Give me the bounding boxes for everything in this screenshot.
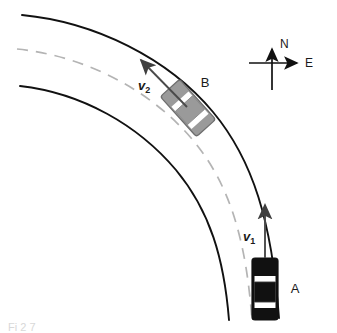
figure-canvas: v1 v2 B A N E Fi 2 7 xyxy=(0,0,337,333)
compass-north-label: N xyxy=(280,37,289,51)
car-label-b: B xyxy=(201,75,210,90)
compass-rose: N E xyxy=(249,37,313,90)
outer-road-edge xyxy=(22,15,279,318)
v1-label: v1 xyxy=(243,229,255,246)
road-group xyxy=(17,15,279,320)
figure-caption: Fi 2 7 xyxy=(8,321,36,333)
velocity-vector-v1: v1 xyxy=(243,205,265,258)
car-a-body xyxy=(252,258,278,320)
car-a-windshield-stripe xyxy=(255,276,276,282)
car-a-rear-stripe xyxy=(255,302,276,308)
compass-east-label: E xyxy=(305,56,313,70)
physics-figure: v1 v2 B A N E Fi 2 7 xyxy=(0,0,337,333)
v2-label: v2 xyxy=(138,78,150,95)
road-center-line xyxy=(17,49,252,320)
car-label-a: A xyxy=(291,281,300,296)
car-a xyxy=(252,258,278,320)
